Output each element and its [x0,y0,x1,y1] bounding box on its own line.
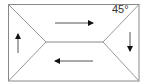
hip-line-bottom-right [103,42,139,81]
slope-angle-label: 45° [112,3,129,15]
roof-plan-diagram: 45° [0,0,146,84]
roof-outline [9,5,140,82]
hip-line-top-left [9,5,47,43]
hip-line-bottom-left [9,42,47,81]
